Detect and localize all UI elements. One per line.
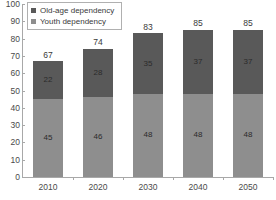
- bar-segment-youth[interactable]: 45: [33, 99, 63, 177]
- y-tick-mark: [22, 91, 25, 92]
- x-tick-label: 2020: [76, 183, 120, 192]
- stacked-bar-chart: 0102030405060708090100 45226746287448358…: [0, 0, 276, 200]
- chart-legend: Old-age dependency Youth dependency: [27, 2, 122, 30]
- y-tick-label: 10: [0, 155, 20, 164]
- y-axis: 0102030405060708090100: [0, 0, 20, 180]
- y-tick-mark: [22, 177, 25, 178]
- bar-segment-old-age[interactable]: 37: [233, 30, 263, 94]
- x-tick-mark: [123, 177, 124, 180]
- bar-group[interactable]: 483785: [183, 4, 213, 177]
- bar-value-old-age: 22: [33, 76, 63, 84]
- bar-value-youth: 45: [33, 134, 63, 142]
- bar-segment-youth[interactable]: 48: [183, 94, 213, 177]
- bar-value-youth: 48: [183, 131, 213, 139]
- y-tick-label: 50: [0, 86, 20, 95]
- y-tick-label: 100: [0, 0, 20, 8]
- y-tick-mark: [22, 73, 25, 74]
- bar-segment-youth[interactable]: 48: [133, 94, 163, 177]
- bar-value-youth: 46: [83, 133, 113, 141]
- bar-value-old-age: 37: [233, 58, 263, 66]
- bar-segment-old-age[interactable]: 37: [183, 30, 213, 94]
- bar-segment-old-age[interactable]: 28: [83, 49, 113, 97]
- legend-item-old-age: Old-age dependency: [31, 5, 118, 16]
- y-tick-label: 90: [0, 17, 20, 26]
- x-tick-label: 2030: [126, 183, 170, 192]
- x-tick-mark: [73, 177, 74, 180]
- y-tick-label: 80: [0, 34, 20, 43]
- legend-item-youth: Youth dependency: [31, 16, 118, 27]
- square-marker-icon: [31, 19, 36, 24]
- y-tick-mark: [22, 4, 25, 5]
- bar-total-label: 67: [27, 51, 69, 60]
- bar-group[interactable]: 483583: [133, 4, 163, 177]
- square-marker-icon: [31, 8, 36, 13]
- bar-total-label: 85: [227, 19, 269, 28]
- x-tick-label: 2010: [26, 183, 70, 192]
- bar-segment-old-age[interactable]: 22: [33, 61, 63, 99]
- y-tick-mark: [22, 160, 25, 161]
- bar-value-old-age: 28: [83, 69, 113, 77]
- bar-segment-youth[interactable]: 46: [83, 97, 113, 177]
- legend-label-old-age: Old-age dependency: [40, 7, 114, 15]
- bar-segment-old-age[interactable]: 35: [133, 33, 163, 94]
- x-tick-mark: [273, 177, 274, 180]
- bar-group[interactable]: 483785: [233, 4, 263, 177]
- x-tick-label: 2040: [176, 183, 220, 192]
- x-tick-mark: [173, 177, 174, 180]
- y-tick-label: 40: [0, 104, 20, 113]
- bar-total-label: 74: [77, 38, 119, 47]
- y-tick-mark: [22, 142, 25, 143]
- y-tick-mark: [22, 21, 25, 22]
- x-tick-mark: [223, 177, 224, 180]
- y-tick-mark: [22, 108, 25, 109]
- x-axis-line: [22, 177, 273, 178]
- y-tick-mark: [22, 56, 25, 57]
- bar-segment-youth[interactable]: 48: [233, 94, 263, 177]
- bar-value-old-age: 35: [133, 60, 163, 68]
- y-tick-mark: [22, 125, 25, 126]
- x-tick-label: 2050: [226, 183, 270, 192]
- y-tick-label: 20: [0, 138, 20, 147]
- y-tick-label: 0: [0, 173, 20, 182]
- bar-value-youth: 48: [233, 131, 263, 139]
- bar-total-label: 83: [127, 23, 169, 32]
- legend-label-youth: Youth dependency: [40, 18, 106, 26]
- y-tick-label: 30: [0, 121, 20, 130]
- y-tick-label: 70: [0, 52, 20, 61]
- bar-value-old-age: 37: [183, 58, 213, 66]
- y-tick-mark: [22, 39, 25, 40]
- y-tick-label: 60: [0, 69, 20, 78]
- bar-total-label: 85: [177, 19, 219, 28]
- bar-value-youth: 48: [133, 131, 163, 139]
